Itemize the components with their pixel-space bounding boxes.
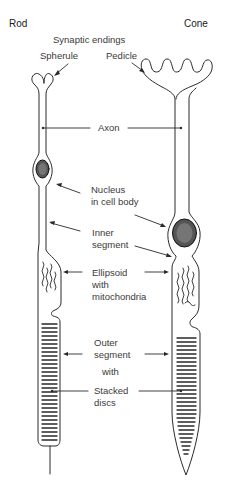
stacked-discs-label-line1: Stacked (94, 385, 128, 397)
cone-mitochondria (177, 266, 195, 306)
stacked-discs-label-line2: discs (94, 397, 116, 409)
cone-pedicle (141, 59, 212, 475)
cone-stacked-discs (177, 338, 196, 454)
axon-label: Axon (98, 122, 120, 134)
outer-segment-label-line2: segment (94, 349, 130, 361)
spherule-label: Spherule (40, 50, 78, 62)
synaptic-endings-label: Synaptic endings (53, 34, 125, 46)
rod-mitochondria (42, 262, 56, 292)
cone-title: Cone (184, 18, 208, 30)
rod-cell (32, 73, 61, 474)
ellipsoid-label-line3: mitochondria (92, 291, 146, 303)
with-label: with (102, 366, 119, 378)
rod-stacked-discs (42, 324, 57, 440)
pedicle-label: Pedicle (106, 50, 137, 62)
nucleus-label-line1: Nucleus (91, 184, 125, 196)
nucleus-label-line2: in cell body (91, 196, 139, 208)
rod-spherule (32, 73, 61, 446)
inner-segment-label-line1: Inner (92, 227, 114, 239)
ellipsoid-label-line1: Ellipsoid (92, 267, 127, 279)
ellipsoid-label-line2: with (92, 279, 109, 291)
inner-segment-label-line2: segment (92, 239, 128, 251)
outer-segment-label-line1: Outer (94, 337, 118, 349)
rod-title: Rod (9, 18, 27, 30)
cone-cell (141, 59, 212, 475)
